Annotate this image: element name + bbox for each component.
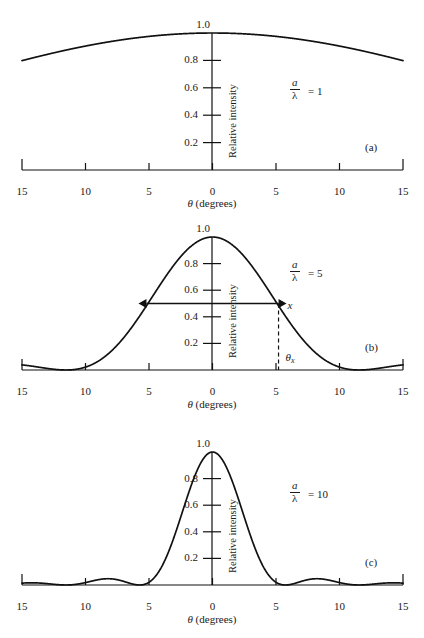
fwhm-x-label: x (288, 300, 293, 311)
y-tick-label-c-2: 0.6 (166, 499, 198, 510)
y-tick-label-a-2: 0.6 (166, 82, 198, 93)
y-axis-title-b: Relative intensity (227, 284, 238, 358)
y-tick-label-b-0: 0.2 (166, 337, 198, 348)
panel-label-c: (c) (365, 557, 377, 568)
y-tick-label-c-3: 0.8 (166, 473, 198, 484)
y-tick-label-c-1: 0.4 (166, 526, 198, 537)
panel-a-plot (0, 0, 424, 210)
x-tick-label-c-1: 10 (77, 601, 95, 612)
ratio-equals-c: = 10 (308, 489, 328, 500)
ratio-denominator: λ (290, 271, 300, 284)
y-tick-label-a-0: 0.2 (166, 137, 198, 148)
y-tick-label-c-4: 1.0 (180, 438, 210, 449)
y-tick-label-b-2: 0.6 (166, 284, 198, 295)
ratio-fraction-c: aλ (290, 480, 300, 504)
x-tick-label-b-0: 15 (13, 386, 31, 397)
x-tick-label-b-4: 5 (267, 386, 285, 397)
ratio-numerator: a (290, 77, 300, 89)
y-axis-title-a: Relative intensity (227, 84, 238, 158)
x-axis-title-b: θ (degrees) (166, 399, 258, 410)
x-tick-label-b-5: 10 (331, 386, 349, 397)
ratio-fraction-a: aλ (290, 77, 300, 101)
panel-a (0, 0, 424, 210)
panel-label-a: (a) (365, 142, 377, 153)
y-tick-label-b-3: 0.8 (166, 258, 198, 269)
ratio-fraction-b: aλ (290, 259, 300, 283)
panel-label-b: (b) (365, 342, 378, 353)
x-tick-label-c-2: 5 (140, 601, 158, 612)
y-tick-label-c-0: 0.2 (166, 552, 198, 563)
x-tick-label-a-5: 10 (331, 186, 349, 197)
x-tick-label-c-3: 0 (204, 601, 222, 612)
panel-c-axes (22, 452, 403, 585)
theta-x-label: θx (286, 352, 295, 365)
ratio-denominator: λ (290, 492, 300, 505)
y-tick-label-a-3: 0.8 (166, 54, 198, 65)
x-axis-title-c: θ (degrees) (166, 614, 258, 625)
y-axis-title-c: Relative intensity (227, 499, 238, 573)
ratio-denominator: λ (290, 89, 300, 102)
x-tick-label-c-0: 15 (13, 601, 31, 612)
ratio-numerator: a (290, 480, 300, 492)
ratio-equals-a: = 1 (308, 86, 322, 97)
x-tick-label-b-1: 10 (77, 386, 95, 397)
x-tick-label-b-3: 0 (204, 386, 222, 397)
x-tick-label-a-3: 0 (204, 186, 222, 197)
x-tick-label-a-6: 15 (394, 186, 412, 197)
y-tick-label-b-1: 0.4 (166, 311, 198, 322)
x-tick-label-a-2: 5 (140, 186, 158, 197)
x-axis-title-a: θ (degrees) (166, 198, 258, 209)
ratio-equals-b: = 5 (308, 268, 322, 279)
x-tick-label-a-4: 5 (267, 186, 285, 197)
panel-a-axes (22, 33, 403, 170)
x-tick-label-b-6: 15 (394, 386, 412, 397)
x-tick-label-a-1: 10 (77, 186, 95, 197)
x-tick-label-b-2: 5 (140, 386, 158, 397)
ratio-numerator: a (290, 259, 300, 271)
x-tick-label-c-5: 10 (331, 601, 349, 612)
y-tick-label-a-4: 1.0 (180, 19, 210, 30)
y-tick-label-a-1: 0.4 (166, 109, 198, 120)
x-tick-label-c-6: 15 (394, 601, 412, 612)
y-tick-label-b-4: 1.0 (180, 223, 210, 234)
x-tick-label-a-0: 15 (13, 186, 31, 197)
x-tick-label-c-4: 5 (267, 601, 285, 612)
